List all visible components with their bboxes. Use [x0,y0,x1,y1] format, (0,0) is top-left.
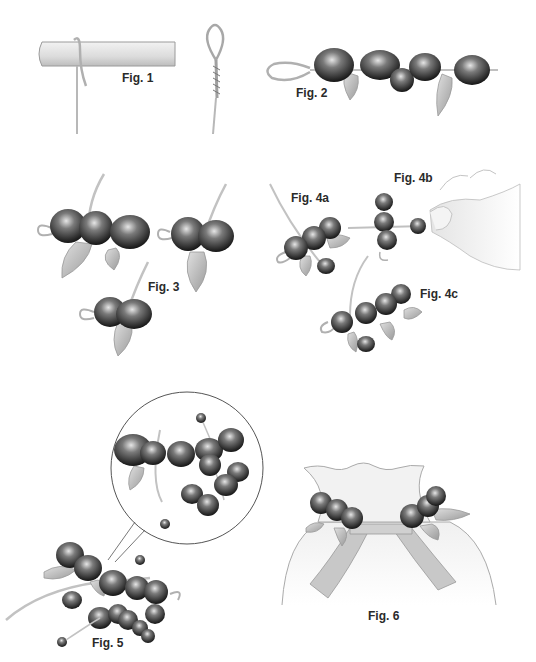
fig4a-label: Fig. 4a [291,191,329,205]
fig6-label: Fig. 6 [368,609,399,623]
fig2-illustration [267,48,498,116]
fig2-label: Fig. 2 [296,86,327,100]
fig3-illustration [38,174,234,356]
fig5-label: Fig. 5 [92,636,123,650]
fig5-illustration [6,392,263,647]
fig4c-label: Fig. 4c [420,287,458,301]
fig1-label: Fig. 1 [122,71,153,85]
fig4b-illustration [348,170,520,270]
instruction-diagram: Fig. 1 Fig. 2 Fig. 3 Fig. 4a Fig. 4b Fig… [0,0,536,662]
fig4b-label: Fig. 4b [394,171,433,185]
fig3-label: Fig. 3 [148,280,179,294]
fig6-illustration [282,463,496,605]
fig4c-illustration [321,256,422,352]
illustration-canvas [0,0,536,662]
